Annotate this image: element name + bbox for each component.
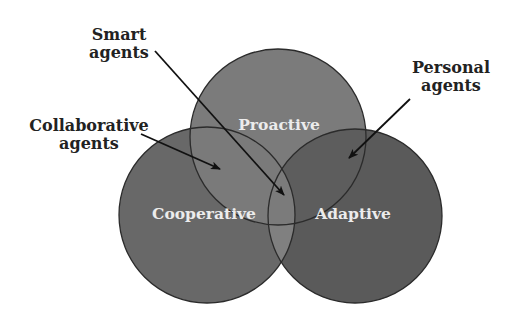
callout-smart-agents-line2: agents: [89, 43, 149, 62]
callout-personal-agents-line1: Personal: [412, 58, 490, 77]
label-proactive: Proactive: [238, 115, 320, 134]
callout-personal-agents-line2: agents: [421, 76, 481, 95]
callout-personal-agents: Personal agents: [412, 58, 490, 95]
venn-diagram: Proactive Cooperative Adaptive Smart age…: [0, 0, 513, 323]
callout-smart-agents: Smart agents: [89, 25, 149, 62]
callout-smart-agents-line1: Smart: [92, 25, 147, 44]
callout-collaborative-agents-line1: Collaborative: [29, 116, 149, 135]
label-adaptive: Adaptive: [314, 204, 391, 223]
callout-collaborative-agents-line2: agents: [59, 134, 119, 153]
label-cooperative: Cooperative: [152, 204, 256, 223]
callout-collaborative-agents: Collaborative agents: [29, 116, 149, 153]
